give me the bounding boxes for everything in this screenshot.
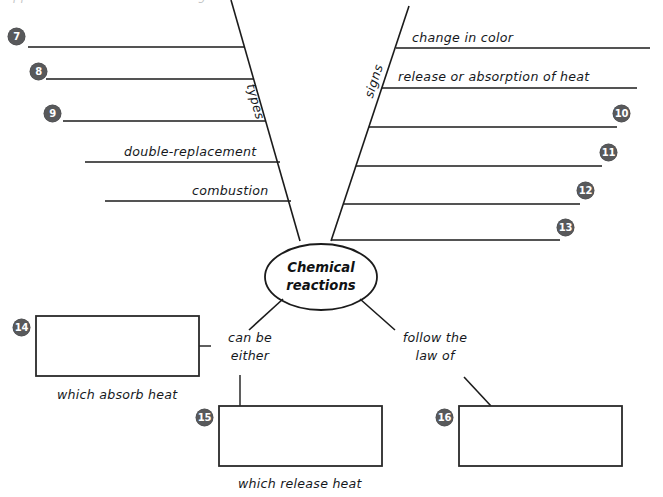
label-change-in-color: change in color bbox=[412, 30, 513, 46]
box-16-diagonal-line bbox=[464, 377, 491, 406]
right-stem-line bbox=[331, 6, 409, 241]
connector-follow-the-law-of-line-2: law of bbox=[391, 347, 479, 365]
label-combustion: combustion bbox=[192, 183, 269, 199]
answer-box-14[interactable] bbox=[36, 316, 199, 376]
answer-box-16[interactable] bbox=[459, 406, 622, 466]
concept-map-canvas: clipped line of text above the diagram bbox=[0, 0, 663, 497]
badge-7[interactable]: 7 bbox=[8, 28, 25, 45]
connector-can-be-either-line-2: either bbox=[214, 347, 286, 365]
badge-9[interactable]: 9 bbox=[44, 105, 61, 122]
connector-can-be-either-line-1: can be bbox=[214, 329, 286, 347]
label-release-or-absorption-of-heat: release or absorption of heat bbox=[398, 69, 590, 85]
caption-box-15: which release heat bbox=[238, 476, 362, 491]
caption-box-14: which absorb heat bbox=[57, 387, 177, 402]
badge-15[interactable]: 15 bbox=[196, 409, 213, 426]
connector-text-follow-the-law-of: follow the law of bbox=[391, 329, 479, 366]
badge-8[interactable]: 8 bbox=[30, 63, 47, 80]
connector-can-be-either-line bbox=[249, 299, 283, 330]
label-double-replacement: double-replacement bbox=[124, 144, 257, 160]
connector-follow-the-law-of-line bbox=[360, 299, 395, 330]
center-node-line-1: Chemical bbox=[266, 259, 376, 277]
badge-11[interactable]: 11 bbox=[600, 144, 617, 161]
center-node-line-2: reactions bbox=[266, 277, 376, 295]
center-node-label: Chemical reactions bbox=[266, 259, 376, 295]
connector-text-can-be-either: can be either bbox=[214, 329, 286, 366]
badge-10[interactable]: 10 bbox=[613, 105, 630, 122]
badge-14[interactable]: 14 bbox=[13, 319, 30, 336]
connector-follow-the-law-of-line-1: follow the bbox=[391, 329, 479, 347]
badge-12[interactable]: 12 bbox=[577, 182, 594, 199]
badge-16[interactable]: 16 bbox=[436, 409, 453, 426]
answer-box-15[interactable] bbox=[219, 406, 382, 466]
badge-13[interactable]: 13 bbox=[557, 219, 574, 236]
